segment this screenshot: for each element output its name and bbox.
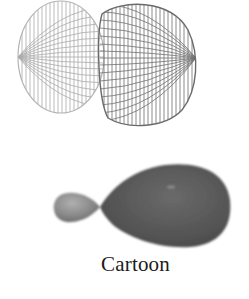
cartoon-orbital <box>54 164 231 247</box>
wireframe-orbital <box>18 0 196 130</box>
cartoon-large-lobe <box>100 164 230 247</box>
wireframe-right-lobe <box>99 0 196 130</box>
wireframe-left-lobe <box>18 0 104 120</box>
cartoon-small-lobe <box>54 193 100 222</box>
figure-caption: Cartoon <box>0 252 249 277</box>
cartoon-highlight <box>167 186 175 189</box>
